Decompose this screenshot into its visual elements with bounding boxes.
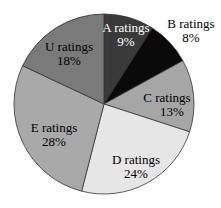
label-b-name: B ratings bbox=[167, 16, 214, 31]
label-u-pct: 18% bbox=[57, 53, 81, 68]
label-c-name: C ratings bbox=[143, 90, 190, 105]
label-d-name: D ratings bbox=[112, 152, 160, 167]
label-a-name: A ratings bbox=[102, 20, 149, 35]
label-c-pct: 13% bbox=[160, 104, 184, 119]
label-e-pct: 28% bbox=[42, 134, 66, 149]
label-a-pct: 9% bbox=[117, 34, 135, 49]
label-e-name: E ratings bbox=[31, 120, 78, 135]
label-b-pct: 8% bbox=[182, 30, 200, 45]
label-d-pct: 24% bbox=[124, 166, 148, 181]
label-u-name: U ratings bbox=[45, 39, 93, 54]
pie-chart: A ratings 9% B ratings 8% C ratings 13% … bbox=[0, 0, 221, 208]
